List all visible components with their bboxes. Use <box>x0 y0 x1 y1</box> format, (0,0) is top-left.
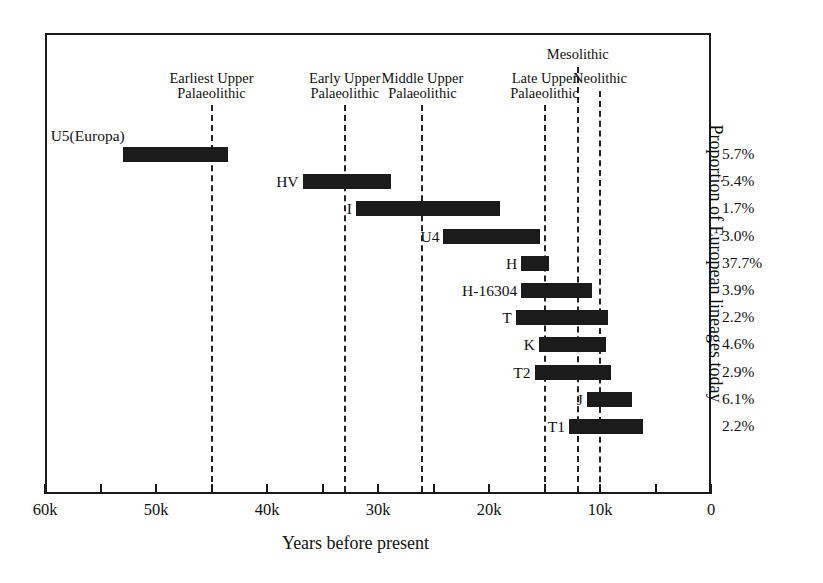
percent-label: 2.2% <box>722 418 754 433</box>
x-tick <box>44 484 46 494</box>
x-tick-label: 20k <box>459 501 519 518</box>
haplogroup-bar <box>356 201 500 216</box>
bar-label: T2 <box>371 365 531 380</box>
x-axis-title: Years before present <box>0 533 711 554</box>
bar-label: H-16304 <box>357 283 517 298</box>
era-label: Earliest Upper Palaeolithic <box>147 71 277 101</box>
percent-label: 37.7% <box>722 255 762 270</box>
x-tick-label: 30k <box>348 501 408 518</box>
percent-label: 5.7% <box>722 146 754 161</box>
haplogroup-bar <box>539 337 606 352</box>
x-tick <box>211 484 213 494</box>
haplogroup-bar <box>516 310 608 325</box>
x-tick <box>544 484 546 494</box>
x-tick <box>155 484 157 494</box>
bar-label: J <box>423 392 583 407</box>
bar-label: HV <box>139 174 299 189</box>
percent-label: 2.2% <box>722 309 754 324</box>
percent-label: 6.1% <box>722 391 754 406</box>
x-tick <box>377 484 379 494</box>
haplogroup-bar <box>123 147 228 162</box>
percent-label: 5.4% <box>722 173 754 188</box>
x-tick-label: 50k <box>126 501 186 518</box>
bar-label: T1 <box>405 419 565 434</box>
x-tick-label: 60k <box>15 501 75 518</box>
x-tick <box>100 484 102 494</box>
bar-label: K <box>375 337 535 352</box>
era-divider-line <box>211 105 213 492</box>
era-label: Neolithic <box>535 71 665 86</box>
y-axis-title: Proportion of European lineages today <box>702 33 726 494</box>
x-tick <box>266 484 268 494</box>
haplogroup-bar <box>569 419 643 434</box>
bar-label: U4 <box>279 229 439 244</box>
haplogroup-bar <box>443 229 540 244</box>
x-tick <box>599 484 601 494</box>
haplogroup-bar <box>587 392 633 407</box>
chart-root: Earliest Upper PalaeolithicEarly Upper P… <box>0 0 823 583</box>
percent-label: 4.6% <box>722 336 754 351</box>
x-tick-label: 0 <box>681 501 741 518</box>
era-label: Mesolithic <box>513 47 643 62</box>
era-divider-line <box>344 105 346 492</box>
bar-label: U5(Europa) <box>0 128 125 143</box>
haplogroup-bar <box>303 174 392 189</box>
x-tick <box>433 484 435 494</box>
bar-label: T <box>352 310 512 325</box>
era-label: Middle Upper Palaeolithic <box>357 71 487 101</box>
percent-label: 3.9% <box>722 282 754 297</box>
x-tick <box>322 484 324 494</box>
haplogroup-bar <box>521 283 592 298</box>
haplogroup-bar <box>521 256 549 271</box>
bar-label: H <box>357 256 517 271</box>
haplogroup-bar <box>535 365 612 380</box>
percent-label: 2.9% <box>722 364 754 379</box>
x-tick <box>488 484 490 494</box>
percent-label: 3.0% <box>722 228 754 243</box>
x-tick-label: 40k <box>237 501 297 518</box>
bar-label: I <box>192 201 352 216</box>
x-tick-label: 10k <box>570 501 630 518</box>
x-tick <box>655 484 657 494</box>
percent-label: 1.7% <box>722 200 754 215</box>
